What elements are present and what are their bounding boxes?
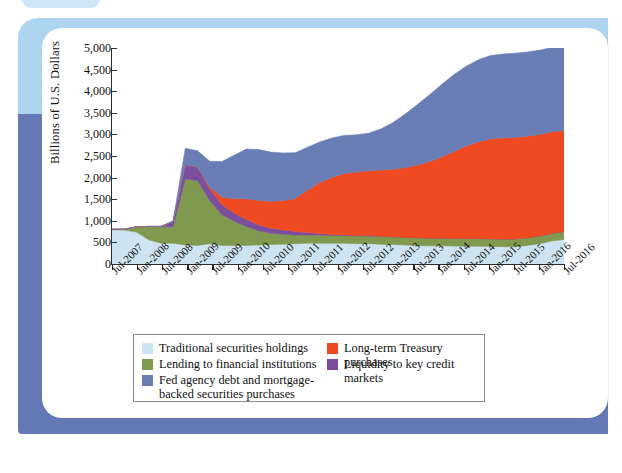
y-tick-mark — [111, 134, 117, 135]
y-tick-label: 2,500 — [84, 149, 111, 164]
y-tick-label: 3,000 — [84, 127, 111, 142]
y-tick-mark — [111, 48, 117, 49]
chart-legend: Traditional securities holdingsLending t… — [133, 334, 485, 402]
y-tick-mark — [111, 156, 117, 157]
y-tick-mark — [111, 242, 117, 243]
y-tick-mark — [111, 264, 117, 265]
y-axis-ticks: 05001,0001,5002,0002,5003,0003,5004,0004… — [55, 0, 111, 473]
legend-item: Lending to financial institutions — [142, 357, 316, 371]
y-tick-mark — [111, 113, 117, 114]
y-tick-label: 4,000 — [84, 84, 111, 99]
y-tick-label: 500 — [93, 235, 111, 250]
y-tick-label: 2,000 — [84, 170, 111, 185]
legend-item: Traditional securities holdings — [142, 341, 308, 355]
legend-label: Lending to financial institutions — [159, 357, 316, 371]
legend-item: Liquidity to key credit markets — [327, 357, 484, 385]
legend-swatch-icon — [327, 359, 338, 370]
legend-label: Fed agency debt and mortgage- backed sec… — [159, 373, 314, 401]
stacked-area-chart: Billions of U.S. Dollars 05001,0001,5002… — [0, 0, 622, 473]
legend-swatch-icon — [142, 343, 153, 354]
y-tick-mark — [111, 178, 117, 179]
legend-swatch-icon — [327, 343, 338, 354]
plot-area — [112, 48, 564, 264]
y-tick-mark — [111, 70, 117, 71]
y-tick-mark — [111, 199, 117, 200]
textbook-figure-page: Billions of U.S. Dollars 05001,0001,5002… — [0, 0, 622, 473]
y-tick-label: 3,500 — [84, 105, 111, 120]
legend-swatch-icon — [142, 359, 153, 370]
y-tick-label: 1,000 — [84, 213, 111, 228]
legend-label: Traditional securities holdings — [159, 341, 308, 355]
stacked-area-paths — [112, 48, 564, 264]
y-tick-label: 4,500 — [84, 62, 111, 77]
legend-item: Fed agency debt and mortgage- backed sec… — [142, 373, 314, 401]
legend-swatch-icon — [142, 375, 153, 386]
y-tick-mark — [111, 91, 117, 92]
y-tick-mark — [111, 221, 117, 222]
y-tick-label: 5,000 — [84, 41, 111, 56]
legend-label: Liquidity to key credit markets — [344, 357, 484, 385]
y-tick-label: 1,500 — [84, 192, 111, 207]
